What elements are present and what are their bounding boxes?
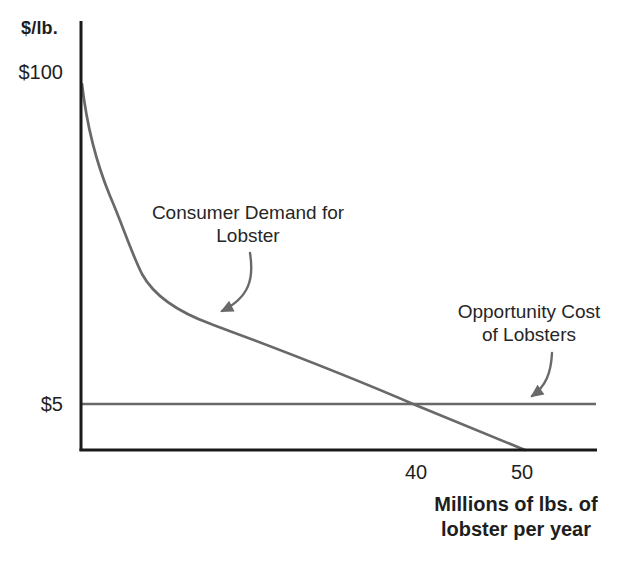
x-tick-40: 40	[405, 461, 427, 484]
x-axis-title-line1: Millions of lbs. of	[434, 492, 597, 517]
demand-arrow-icon	[222, 253, 251, 311]
x-axis-title-line2: lobster per year	[434, 517, 597, 542]
demand-curve-label-line2: Lobster	[152, 224, 344, 247]
opportunity-cost-label: Opportunity Cost of Lobsters	[458, 300, 601, 346]
x-tick-50: 50	[511, 461, 533, 484]
opportunity-cost-label-line2: of Lobsters	[458, 323, 601, 346]
demand-curve-label: Consumer Demand for Lobster	[152, 201, 344, 247]
cost-arrow-icon	[532, 353, 552, 396]
demand-curve	[82, 84, 525, 450]
opportunity-cost-label-line1: Opportunity Cost	[458, 300, 601, 323]
y-tick-100: $100	[11, 61, 63, 84]
x-axis-title: Millions of lbs. of lobster per year	[434, 492, 597, 542]
demand-curve-label-line1: Consumer Demand for	[152, 201, 344, 224]
figure-canvas: $/lb. $100 $5 Consumer Demand for Lobste…	[0, 0, 626, 568]
y-tick-5: $5	[11, 393, 63, 416]
y-axis-title: $/lb.	[21, 18, 58, 39]
